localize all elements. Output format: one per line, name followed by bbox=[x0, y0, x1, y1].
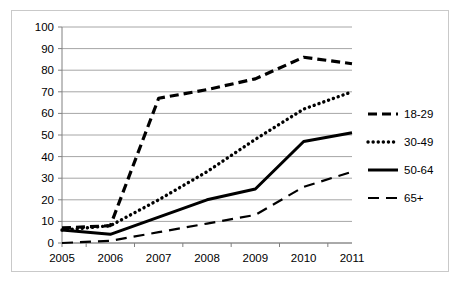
chart-container: 1009080706050403020100 20052006200720082… bbox=[0, 0, 462, 292]
tick-marks-group bbox=[58, 27, 328, 247]
series-lines-group bbox=[62, 57, 352, 243]
x-tick-label: 2011 bbox=[332, 252, 372, 264]
y-tick-label: 60 bbox=[26, 107, 54, 119]
y-tick-label: 20 bbox=[26, 194, 54, 206]
y-tick-label: 0 bbox=[26, 237, 54, 249]
y-tick-label: 90 bbox=[26, 43, 54, 55]
legend-item-30-49: 30-49 bbox=[404, 136, 433, 148]
series-line-65plus bbox=[62, 172, 352, 243]
y-tick-label: 10 bbox=[26, 215, 54, 227]
y-tick-label: 100 bbox=[26, 21, 54, 33]
x-tick-label: 2010 bbox=[284, 252, 324, 264]
series-line-30-49 bbox=[62, 92, 352, 230]
x-tick-label: 2008 bbox=[187, 252, 227, 264]
y-tick-label: 50 bbox=[26, 129, 54, 141]
x-tick-label: 2007 bbox=[139, 252, 179, 264]
y-tick-label: 70 bbox=[26, 86, 54, 98]
x-tick-label: 2009 bbox=[235, 252, 275, 264]
x-tick-label: 2005 bbox=[42, 252, 82, 264]
y-tick-label: 30 bbox=[26, 172, 54, 184]
legend-item-65plus: 65+ bbox=[404, 192, 424, 204]
series-line-50-64 bbox=[62, 133, 352, 235]
line-chart-plot bbox=[0, 0, 462, 292]
x-tick-label: 2006 bbox=[90, 252, 130, 264]
series-line-18-29 bbox=[62, 57, 352, 228]
y-tick-label: 40 bbox=[26, 151, 54, 163]
legend-item-18-29: 18-29 bbox=[404, 108, 433, 120]
legend-item-50-64: 50-64 bbox=[404, 164, 433, 176]
y-tick-label: 80 bbox=[26, 64, 54, 76]
legend-swatches-group bbox=[368, 114, 398, 198]
